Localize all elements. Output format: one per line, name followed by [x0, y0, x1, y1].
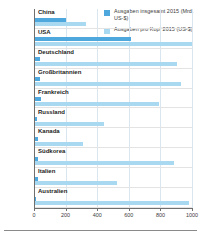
x-axis-line: [34, 208, 192, 209]
chart-row: Frankreich: [34, 89, 192, 109]
tick-label-200: 200: [61, 212, 70, 218]
chart-row: Großbritannien: [34, 69, 192, 89]
chart-container: Ausgaben insgesamt 2015 (Mrd. US-$) Ausg…: [0, 0, 201, 235]
bar-per-capita: [34, 181, 117, 185]
tick-label-400: 400: [93, 212, 102, 218]
bar-per-capita: [34, 22, 86, 26]
tick-label-0: 0: [33, 212, 36, 218]
tick-label-800: 800: [156, 212, 165, 218]
chart-row: USA: [34, 29, 192, 49]
chart-row: Deutschland: [34, 49, 192, 69]
bar-per-capita: [34, 102, 159, 106]
chart-row: Russland: [34, 109, 192, 129]
y-axis-line: [34, 9, 35, 208]
category-label: Südkorea: [38, 148, 65, 154]
chart-row: China: [34, 9, 192, 29]
tick-1000: [192, 208, 193, 211]
tick-400: [97, 208, 98, 211]
category-label: Frankreich: [38, 89, 69, 95]
bar-per-capita: [34, 122, 104, 126]
tick-label-600: 600: [124, 212, 133, 218]
tick-200: [66, 208, 67, 211]
bar-total: [34, 97, 41, 101]
category-label: Russland: [38, 109, 65, 115]
tick-0: [34, 208, 35, 211]
plot-area: ChinaUSADeutschlandGroßbritannienFrankre…: [34, 9, 192, 208]
category-label: China: [38, 9, 55, 15]
bar-per-capita: [34, 42, 192, 46]
bar-total: [34, 37, 131, 41]
bar-per-capita: [34, 161, 174, 165]
bar-per-capita: [34, 62, 177, 66]
category-label: Großbritannien: [38, 69, 81, 75]
bar-per-capita: [34, 201, 189, 205]
tick-800: [160, 208, 161, 211]
bar-per-capita: [34, 142, 83, 146]
chart-row: Kanada: [34, 128, 192, 148]
chart-row: Italien: [34, 168, 192, 188]
category-label: Kanada: [38, 128, 60, 134]
bottom-rule: [4, 230, 197, 231]
gridline-1000: [192, 9, 193, 208]
chart-row: Australien: [34, 188, 192, 208]
tick-label-1000: 1000: [186, 212, 198, 218]
category-label: Italien: [38, 168, 55, 174]
chart-row: Südkorea: [34, 148, 192, 168]
category-label: Deutschland: [38, 49, 74, 55]
bar-per-capita: [34, 82, 181, 86]
bar-total: [34, 18, 66, 22]
category-label: Australien: [38, 188, 67, 194]
tick-600: [129, 208, 130, 211]
category-label: USA: [38, 29, 51, 35]
